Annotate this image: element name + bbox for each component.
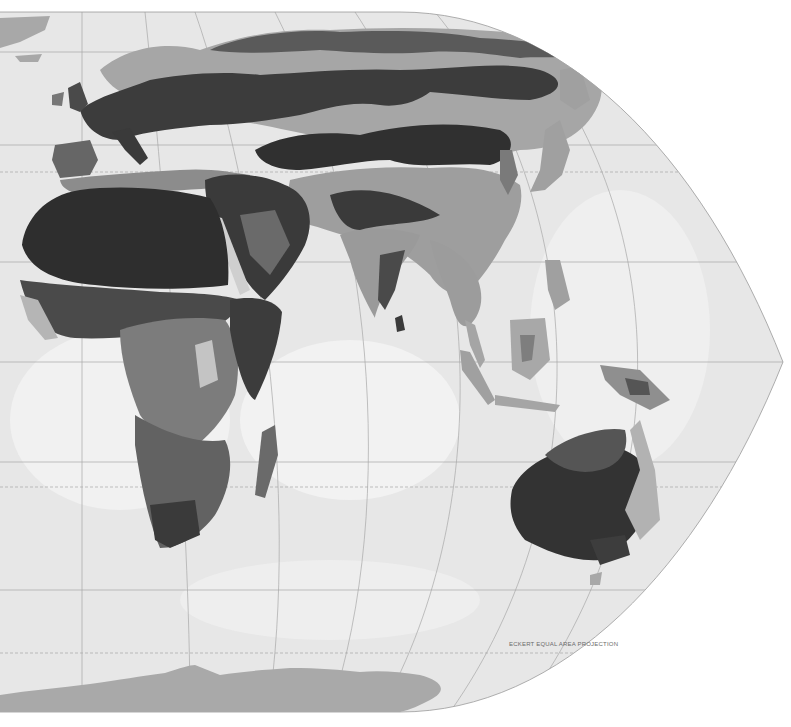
map-canvas xyxy=(0,0,791,727)
iberia xyxy=(52,140,98,178)
world-map: ECKERT EQUAL AREA PROJECTION xyxy=(0,0,791,727)
africa-sahara xyxy=(22,188,228,289)
projection-label: ECKERT EQUAL AREA PROJECTION xyxy=(509,641,618,647)
